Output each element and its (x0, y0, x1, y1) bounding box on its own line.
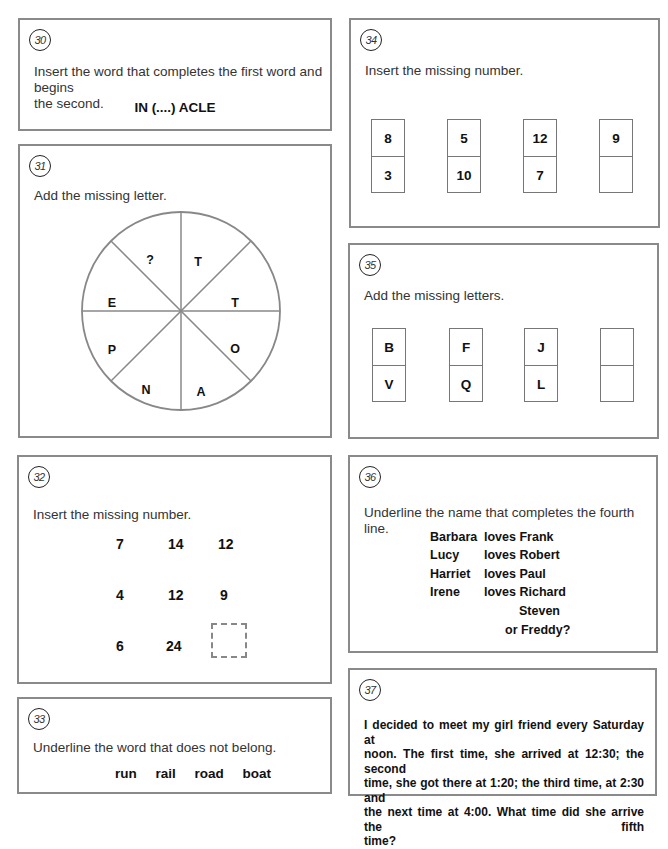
loved-name: loves Frank (484, 530, 553, 544)
puzzle-prompt: Insert the missing number. (365, 63, 523, 79)
puzzle-number-badge: 32 (28, 466, 50, 488)
wheel-segment-letter: T (231, 296, 239, 310)
puzzle-34-card: 34 Insert the missing number. 8 3 5 10 1… (349, 18, 660, 228)
puzzle-37-card: 37 I decided to meet my girl friend ever… (348, 668, 657, 796)
wheel-segment-letter: T (194, 255, 202, 269)
puzzle-number-badge: 31 (29, 155, 51, 177)
number-domino: 8 3 (371, 119, 405, 193)
grid-cell: 7 (116, 536, 124, 552)
puzzle-number-badge: 30 (29, 29, 51, 51)
puzzle-prompt: Underline the word that does not belong. (33, 740, 276, 756)
wheel-segment-letter: N (141, 383, 150, 397)
puzzle-35-card: 35 Add the missing letters. B V F Q J L (348, 243, 659, 439)
puzzle-prompt: Insert the missing number. (33, 507, 191, 523)
grid-cell: 9 (220, 587, 228, 603)
word-options: run rail road boat (115, 766, 286, 781)
puzzle-number-badge: 36 (359, 466, 381, 488)
wheel-segment-letter: ? (146, 253, 154, 267)
grid-cell: 24 (166, 638, 182, 654)
puzzle-number-badge: 37 (359, 679, 381, 701)
puzzle-prompt: Add the missing letter. (34, 188, 167, 204)
puzzle-31-card: 31 Add the missing letter. ? T T O A N P… (18, 144, 332, 438)
word-problem-text: I decided to meet my girl friend every S… (364, 718, 644, 849)
puzzle-prompt: Add the missing letters. (364, 288, 504, 304)
missing-letters-domino (600, 328, 634, 402)
lover-name: Harriet (430, 567, 470, 581)
loved-name: loves Robert (484, 548, 560, 562)
puzzle-30-card: 30 Insert the word that completes the fi… (18, 18, 332, 131)
lover-name: Barbara (430, 530, 477, 544)
word-option[interactable]: run (115, 766, 137, 781)
letter-domino: F Q (449, 328, 483, 402)
number-domino: 12 7 (523, 119, 557, 193)
puzzle-36-card: 36 Underline the name that completes the… (348, 455, 658, 653)
number-domino: 5 10 (447, 119, 481, 193)
word-option[interactable]: boat (243, 766, 272, 781)
wheel-segment-letter: P (108, 343, 116, 357)
puzzle-number-badge: 33 (28, 708, 50, 730)
word-option[interactable]: road (195, 766, 224, 781)
missing-number-box (211, 623, 247, 658)
word-puzzle: IN (....) ACLE (20, 100, 330, 115)
grid-cell: 12 (168, 587, 184, 603)
loved-name: loves Richard (484, 585, 566, 599)
wheel-segment-letter: A (196, 385, 205, 399)
wheel-segment-letter: O (230, 342, 240, 356)
grid-cell: 12 (218, 536, 234, 552)
lover-name: Lucy (430, 548, 459, 562)
word-option[interactable]: rail (156, 766, 176, 781)
puzzle-number-badge: 35 (359, 254, 381, 276)
letter-domino: J L (524, 328, 558, 402)
missing-number-domino: 9 (599, 119, 633, 193)
grid-cell: 14 (168, 536, 184, 552)
lover-name: Irene (430, 585, 460, 599)
loved-name: loves Paul (484, 567, 546, 581)
answer-option[interactable]: Steven (519, 604, 560, 618)
answer-option[interactable]: or Freddy? (505, 623, 570, 637)
letter-wheel-diagram (76, 206, 286, 416)
letter-domino: B V (372, 328, 406, 402)
grid-cell: 6 (116, 638, 124, 654)
puzzle-33-card: 33 Underline the word that does not belo… (17, 697, 332, 794)
puzzle-32-card: 32 Insert the missing number. 7 14 12 4 … (17, 455, 332, 684)
wheel-segment-letter: E (108, 296, 116, 310)
grid-cell: 4 (116, 587, 124, 603)
puzzle-number-badge: 34 (360, 29, 382, 51)
